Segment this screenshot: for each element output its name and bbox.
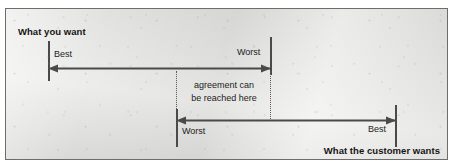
agreement-zone-left-boundary (176, 71, 177, 113)
heading-what-the-customer-wants: What the customer wants (324, 145, 440, 156)
top-scale-arrow-icon (48, 64, 271, 73)
bottom-scale-label-worst: Worst (182, 126, 205, 137)
top-scale-label-worst: Worst (237, 47, 260, 58)
bottom-scale-right-tick (395, 105, 397, 147)
diagram-panel: What you want What the customer wants Be… (5, 8, 448, 160)
bottom-scale-left-tick (176, 109, 178, 147)
heading-what-you-want: What you want (18, 26, 86, 37)
agreement-annotation-line-2: be reached here (178, 92, 270, 105)
bottom-scale-label-best: Best (368, 124, 386, 135)
agreement-zone-annotation: agreement can be reached here (178, 79, 270, 104)
bottom-scale-arrow-icon (176, 116, 396, 125)
top-scale-label-best: Best (54, 49, 72, 60)
negotiation-range-diagram: What you want What the customer wants Be… (0, 0, 455, 168)
agreement-annotation-line-1: agreement can (178, 79, 270, 92)
agreement-zone-right-boundary (270, 71, 271, 121)
top-scale-left-tick (48, 41, 50, 81)
